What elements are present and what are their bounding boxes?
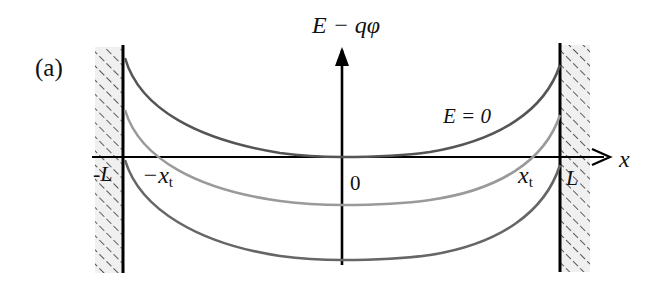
x-axis-label: x (619, 146, 630, 173)
y-axis-arrow-icon (335, 47, 349, 66)
y-axis-label: E − qφ (312, 12, 380, 39)
right-wall-hatch (561, 45, 590, 272)
right-wall-label: L (566, 165, 578, 191)
pos-turning-point-text: x (518, 162, 529, 188)
neg-turning-point-text: −x (142, 162, 169, 188)
left-wall-hatch (95, 47, 123, 273)
neg-turning-point-subscript: t (169, 174, 173, 190)
neg-turning-point-label: −xt (142, 162, 173, 191)
origin-label: 0 (350, 171, 361, 196)
left-wall-label: -L (93, 161, 113, 187)
pos-turning-point-label: xt (518, 162, 533, 191)
diagram-canvas (0, 0, 666, 303)
pos-turning-point-subscript: t (529, 174, 533, 190)
panel-label: (a) (35, 54, 63, 82)
curve-e-zero-label: E = 0 (443, 104, 491, 129)
